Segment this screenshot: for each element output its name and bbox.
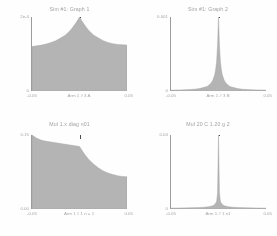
panel-top-left-title: Sim #1: Graph 1: [0, 6, 139, 13]
delta-spike-marker-line: [219, 135, 220, 136]
x-tick-left: -0.05: [166, 211, 176, 217]
panel-top-right-title: Sim #1: Graph 2: [139, 6, 277, 13]
x-axis-label: Arm 1 # 1 n1: [205, 211, 230, 217]
y-tick-top: 2e-4: [20, 14, 29, 20]
area-curve-bottom-right: [171, 135, 266, 209]
area-curve-top-left: [32, 17, 127, 91]
cut-marker-line: [80, 135, 81, 139]
x-tick-left: -0.05: [27, 93, 37, 99]
four-panel-figure: Sim #1: Graph 1 2e-4 0 -0.05 Arm 1 # 3 A…: [0, 0, 277, 236]
panel-bottom-right-plot: 0.04 0 -0.05 Arm 1 # 1 n1 0.05: [170, 135, 266, 209]
panel-bottom-right: Mul 20 C 1.20 g 2 0.04 0 -0.05 Arm 1 # 1…: [139, 115, 277, 236]
area-curve-top-right: [171, 17, 266, 91]
x-tick-left: -0.05: [166, 93, 176, 99]
panel-bottom-right-title: Mul 20 C 1.20 g 2: [139, 121, 277, 128]
x-axis-label: Arm 1 # 3 A: [68, 93, 91, 99]
panel-top-right: Sim #1: Graph 2 0.001 0 -0.05 Arm 1 # 3 …: [139, 0, 277, 118]
y-tick-top: 0.15: [20, 132, 29, 138]
y-tick-top: 0.001: [157, 14, 168, 20]
area-curve-bottom-left: [32, 135, 127, 209]
x-tick-right: 0.05: [263, 93, 272, 99]
x-axis-label: Arm 1 # 3 B: [206, 93, 229, 99]
panel-bottom-left: Mul 1.x diag n01 0.15 0.00 -0.05 Arm 1 #…: [0, 115, 139, 236]
panel-bottom-left-title: Mul 1.x diag n01: [0, 121, 139, 128]
panel-top-right-plot: 0.001 0 -0.05 Arm 1 # 3 B 0.05: [170, 17, 266, 91]
panel-bottom-left-plot: 0.15 0.00 -0.05 Arm 1 # 1 n = 1 0.05: [31, 135, 127, 209]
panel-top-left-plot: 2e-4 0 -0.05 Arm 1 # 3 A 0.05: [31, 17, 127, 91]
x-tick-right: 0.05: [124, 93, 133, 99]
x-tick-right: 0.05: [263, 211, 272, 217]
peak-marker-line: [80, 17, 81, 18]
peak-marker-line: [219, 17, 220, 18]
panel-top-left: Sim #1: Graph 1 2e-4 0 -0.05 Arm 1 # 3 A…: [0, 0, 139, 118]
x-tick-left: -0.05: [27, 211, 37, 217]
x-axis-label: Arm 1 # 1 n = 1: [64, 211, 94, 217]
x-tick-right: 0.05: [124, 211, 133, 217]
y-tick-top: 0.04: [159, 132, 168, 138]
